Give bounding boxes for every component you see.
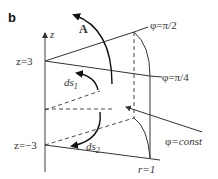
panel-label: b: [8, 10, 16, 25]
phi-pi-2-edge: [45, 32, 134, 61]
phi-const-label: φ=const: [165, 135, 203, 147]
ds2-label: ds2: [86, 140, 100, 155]
cylinder-diagram: b z z=3 z=−3 A ds1 ds2 φ=π/2 φ=π/4 φ=con…: [0, 0, 218, 179]
z-bottom-label: z=−3: [14, 139, 37, 151]
vector-A-label: A: [79, 22, 88, 36]
hidden-upper-slant: [45, 91, 100, 110]
bottom-edge: [45, 145, 160, 160]
inner-curve: [134, 118, 150, 158]
cylinder-surface-curve: [134, 32, 150, 158]
ds1-label: ds1: [64, 76, 78, 91]
radius-label: r=1: [138, 163, 155, 175]
phi-pi-2-leader: [134, 27, 148, 32]
phi-pi-4-leader: [150, 76, 162, 77]
phi-const-leader: [126, 107, 202, 132]
phi-pi-4-label: φ=π/4: [162, 71, 189, 83]
ds1-arc: [77, 73, 98, 90]
phi-pi-2-label: φ=π/2: [150, 19, 177, 31]
z-axis-label: z: [49, 28, 55, 40]
z-top-label: z=3: [16, 55, 33, 67]
